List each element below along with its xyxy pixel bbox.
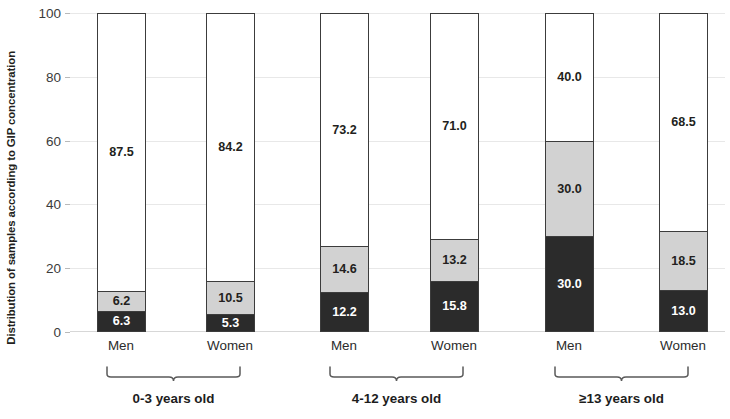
bar-women-13-plus-years: 68.5 18.5 13.0 (659, 13, 708, 332)
bar-segment-gray: 18.5 (660, 231, 707, 290)
bar-segment-label-white: 71.0 (442, 120, 467, 133)
gridline-40 (70, 204, 725, 205)
tick-0 (65, 332, 70, 333)
group-label-0-3-years: 0-3 years old (105, 391, 242, 406)
bar-segment-label-white: 40.0 (557, 71, 582, 84)
gridline-60 (70, 141, 725, 142)
x-axis-label-women-4-12: Women (409, 338, 499, 353)
group-bracket-0-3-years (105, 366, 242, 383)
bar-women-0-3-years: 84.2 10.5 5.3 (206, 13, 255, 332)
group-label-13-plus-years: ≥13 years old (553, 391, 690, 406)
x-axis-label-women-0-3: Women (185, 338, 275, 353)
bar-segment-white: 40.0 (546, 14, 593, 141)
bar-segment-label-gray: 18.5 (671, 255, 696, 268)
y-axis-title-text: Distribution of samples according to GIP… (6, 51, 17, 345)
ytick-label-0: 0 (53, 325, 61, 340)
bar-segment-dark: 12.2 (321, 292, 368, 331)
bar-segment-gray: 14.6 (321, 246, 368, 292)
bar-segment-white: 71.0 (431, 14, 478, 239)
bar-men-4-12-years: 73.2 14.6 12.2 (320, 13, 369, 332)
bar-segment-label-gray: 14.6 (332, 263, 357, 276)
x-axis-label-women-13-plus: Women (638, 338, 728, 353)
bar-segment-gray: 30.0 (546, 141, 593, 236)
bar-segment-label-dark: 12.2 (332, 306, 357, 319)
bar-segment-white: 68.5 (660, 14, 707, 231)
bar-segment-dark: 6.3 (98, 311, 145, 331)
bar-segment-label-white: 73.2 (332, 124, 357, 137)
bar-segment-label-white: 87.5 (109, 146, 134, 159)
bar-segment-label-dark: 5.3 (222, 317, 240, 330)
ytick-label-100: 100 (38, 6, 61, 21)
bar-segment-white: 73.2 (321, 14, 368, 246)
bar-segment-label-gray: 6.2 (113, 295, 131, 308)
group-bracket-4-12-years (328, 366, 465, 383)
bar-segment-label-dark: 30.0 (557, 278, 582, 291)
tick-100 (65, 13, 70, 14)
ytick-label-80: 80 (46, 69, 61, 84)
bar-segment-label-white: 84.2 (218, 141, 243, 154)
ytick-label-60: 60 (46, 133, 61, 148)
bar-segment-dark: 15.8 (431, 281, 478, 331)
bar-segment-label-gray: 30.0 (557, 183, 582, 196)
tick-20 (65, 268, 70, 269)
plot-area: 100 80 60 40 20 0 87.5 6.2 6.3 (70, 13, 725, 332)
bar-men-13-plus-years: 40.0 30.0 30.0 (545, 13, 594, 332)
gridline-20 (70, 268, 725, 269)
bar-segment-label-gray: 10.5 (218, 292, 243, 305)
gridline-100 (70, 13, 725, 14)
ytick-label-40: 40 (46, 197, 61, 212)
bar-segment-label-dark: 6.3 (113, 315, 131, 328)
bar-segment-white: 87.5 (98, 14, 145, 291)
bar-segment-white: 84.2 (207, 14, 254, 281)
x-axis-label-men-13-plus: Men (524, 338, 614, 353)
group-bracket-13-plus-years (553, 366, 690, 383)
x-axis-label-men-4-12: Men (299, 338, 389, 353)
bar-segment-gray: 13.2 (431, 239, 478, 281)
group-label-4-12-years: 4-12 years old (328, 391, 465, 406)
bar-segment-dark: 13.0 (660, 290, 707, 331)
stacked-bar-chart: Distribution of samples according to GIP… (0, 0, 730, 419)
axis-baseline (70, 331, 725, 332)
bar-segment-label-dark: 13.0 (671, 305, 696, 318)
x-axis-label-men-0-3: Men (76, 338, 166, 353)
tick-40 (65, 204, 70, 205)
bar-segment-gray: 10.5 (207, 281, 254, 314)
tick-80 (65, 77, 70, 78)
tick-60 (65, 141, 70, 142)
ytick-label-20: 20 (46, 261, 61, 276)
y-axis-title: Distribution of samples according to GIP… (0, 0, 24, 345)
bar-segment-label-white: 68.5 (671, 116, 696, 129)
bar-segment-dark: 5.3 (207, 314, 254, 331)
bar-segment-label-gray: 13.2 (442, 254, 467, 267)
bar-segment-dark: 30.0 (546, 236, 593, 331)
bar-segment-label-dark: 15.8 (442, 300, 467, 313)
bar-women-4-12-years: 71.0 13.2 15.8 (430, 13, 479, 332)
bar-segment-gray: 6.2 (98, 291, 145, 311)
gridline-80 (70, 77, 725, 78)
bar-men-0-3-years: 87.5 6.2 6.3 (97, 13, 146, 332)
